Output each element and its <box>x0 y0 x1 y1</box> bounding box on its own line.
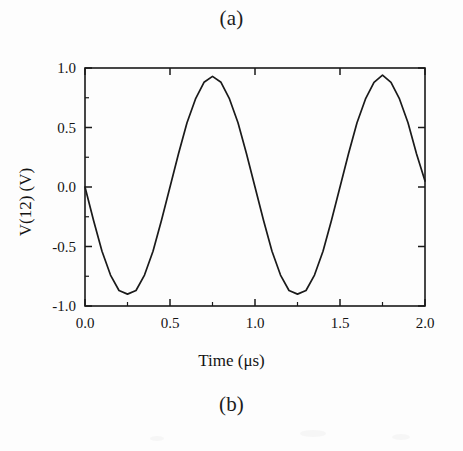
x-tick-label: 2.0 <box>416 315 435 331</box>
x-tick-label: 1.0 <box>246 315 265 331</box>
figure-page: (a) 0.00.51.01.52.0-1.0-0.50.00.51.0 V(1… <box>0 0 463 451</box>
x-tick-label: 1.5 <box>331 315 350 331</box>
y-axis-title: V(12) (V) <box>16 122 36 282</box>
series-line-V(12) <box>85 75 425 294</box>
y-tick-label: 1.0 <box>57 60 76 76</box>
caption-b: (b) <box>0 392 463 417</box>
x-tick-label: 0.0 <box>76 315 95 331</box>
y-tick-label: 0.5 <box>57 120 76 136</box>
plot-area: 0.00.51.01.52.0-1.0-0.50.00.51.0 <box>0 40 463 385</box>
scan-artifact <box>300 430 326 437</box>
y-tick-label: 0.0 <box>57 179 76 195</box>
x-tick-label: 0.5 <box>161 315 180 331</box>
y-tick-label: -1.0 <box>52 298 76 314</box>
y-tick-label: -0.5 <box>52 239 76 255</box>
scan-artifact <box>150 436 164 441</box>
chart-figure: 0.00.51.01.52.0-1.0-0.50.00.51.0 V(12) (… <box>0 40 463 385</box>
caption-a: (a) <box>0 6 463 31</box>
scan-artifact <box>392 434 410 440</box>
x-axis-title: Time (μs) <box>0 351 463 371</box>
